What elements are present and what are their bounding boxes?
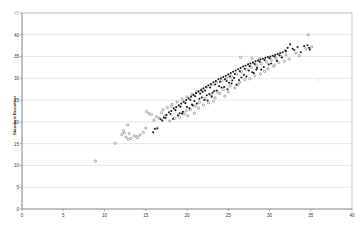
data-point xyxy=(203,99,205,101)
data-point xyxy=(287,47,289,49)
data-point xyxy=(177,114,179,116)
data-point xyxy=(265,61,267,63)
data-point xyxy=(169,113,171,115)
data-point xyxy=(145,110,147,112)
scatter-chart: Standard Deviation 45 40 35 30 25 20 15 … xyxy=(0,0,363,228)
data-point xyxy=(219,81,221,83)
data-point xyxy=(179,106,181,108)
data-point xyxy=(121,133,123,135)
data-point xyxy=(170,105,172,107)
data-point xyxy=(193,112,195,114)
data-point xyxy=(208,93,210,95)
data-point xyxy=(235,84,237,86)
data-point xyxy=(224,78,226,80)
data-point xyxy=(156,127,158,129)
data-point xyxy=(288,58,290,60)
data-point xyxy=(234,73,236,75)
data-point xyxy=(186,106,188,108)
data-point xyxy=(245,65,247,67)
data-point xyxy=(181,113,183,115)
data-point xyxy=(234,87,236,89)
data-point xyxy=(178,116,180,118)
data-point xyxy=(154,128,156,130)
data-point xyxy=(225,75,227,77)
data-point xyxy=(212,92,214,94)
data-point xyxy=(222,89,224,91)
data-point xyxy=(194,95,196,97)
data-point xyxy=(114,142,116,144)
data-point xyxy=(214,83,216,85)
data-point xyxy=(174,109,176,111)
data-point xyxy=(267,68,269,70)
data-point xyxy=(248,69,250,71)
data-point xyxy=(200,89,202,91)
data-point xyxy=(185,99,187,101)
data-point xyxy=(160,118,162,120)
data-point xyxy=(192,104,194,106)
data-point xyxy=(185,109,187,111)
data-point xyxy=(273,56,275,58)
data-point xyxy=(254,75,256,77)
data-point xyxy=(249,65,251,67)
data-point xyxy=(190,96,192,98)
data-point xyxy=(204,89,206,91)
data-point xyxy=(184,102,186,104)
data-point xyxy=(172,118,174,120)
data-point xyxy=(264,59,266,61)
data-point xyxy=(262,58,264,60)
data-point xyxy=(136,136,138,138)
data-point xyxy=(226,80,228,82)
data-point xyxy=(201,96,203,98)
data-point xyxy=(285,54,287,56)
data-point xyxy=(230,72,232,74)
data-point xyxy=(245,76,247,78)
data-point xyxy=(213,90,215,92)
data-point xyxy=(202,91,204,93)
data-point xyxy=(249,62,251,64)
data-point xyxy=(260,62,262,64)
data-point xyxy=(173,107,175,109)
data-point xyxy=(220,77,222,79)
data-point xyxy=(227,91,229,93)
data-point xyxy=(247,63,249,65)
data-point xyxy=(267,56,269,58)
data-point xyxy=(279,52,281,54)
data-point xyxy=(240,76,242,78)
data-point xyxy=(126,124,128,126)
data-point xyxy=(207,84,209,86)
data-point xyxy=(224,95,226,97)
data-point xyxy=(298,55,300,57)
data-point xyxy=(139,134,141,136)
data-point xyxy=(243,74,245,76)
data-point xyxy=(221,86,223,88)
data-point xyxy=(229,85,231,87)
data-point xyxy=(239,56,241,58)
data-point xyxy=(142,131,144,133)
data-point xyxy=(218,85,220,87)
data-point xyxy=(188,107,190,109)
data-point xyxy=(289,43,291,45)
data-point xyxy=(194,105,196,107)
data-point xyxy=(252,62,254,64)
data-point xyxy=(283,60,285,62)
data-point xyxy=(212,100,214,102)
data-point xyxy=(281,56,283,58)
data-point xyxy=(227,73,229,75)
data-point xyxy=(292,48,294,50)
data-point xyxy=(310,46,312,48)
data-point xyxy=(307,34,309,36)
data-point xyxy=(254,60,256,62)
plot-area xyxy=(0,0,363,228)
data-point xyxy=(150,113,152,115)
data-point xyxy=(205,86,207,88)
data-point xyxy=(198,101,200,103)
data-point xyxy=(170,110,172,112)
data-point xyxy=(196,103,198,105)
data-point xyxy=(303,45,305,47)
data-point xyxy=(277,62,279,64)
data-point xyxy=(237,68,239,70)
data-point xyxy=(198,90,200,92)
data-point xyxy=(293,49,295,51)
data-point xyxy=(251,71,253,73)
data-point xyxy=(193,94,195,96)
